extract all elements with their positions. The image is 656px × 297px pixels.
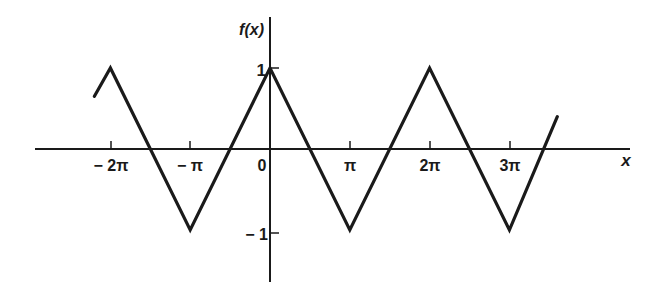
x-tick-label-3pi: 3π bbox=[499, 157, 520, 174]
y-axis-label: f(x) bbox=[239, 21, 264, 38]
x-tick-label-neg-2pi: − 2π bbox=[94, 157, 129, 174]
x-tick-label-pi: π bbox=[344, 157, 356, 174]
y-ticks bbox=[270, 68, 279, 233]
y-tick-label-1: 1 bbox=[257, 61, 266, 80]
y-tick-label-neg-1: − 1 bbox=[245, 226, 268, 243]
x-axis-label: x bbox=[620, 151, 632, 170]
x-tick-label-2pi: 2π bbox=[419, 157, 440, 174]
x-tick-label-neg-pi: − π bbox=[177, 157, 203, 174]
x-tick-label-zero: 0 bbox=[258, 157, 267, 174]
triangle-wave-chart: − 2π − π 0 π 2π 3π 1 − 1 f(x) x bbox=[0, 0, 656, 297]
